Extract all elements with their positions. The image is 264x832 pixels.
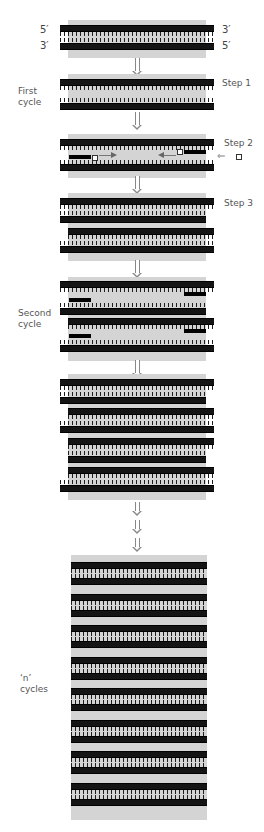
dna-strand (60, 164, 214, 171)
dna-strand (71, 720, 207, 727)
dna-strand (71, 767, 207, 774)
bases (68, 235, 214, 239)
bases (60, 38, 214, 42)
down-arrow-icon (134, 176, 140, 194)
down-arrow-icon (134, 502, 140, 516)
n-cycles-stack (71, 562, 207, 812)
down-arrow-icon (134, 260, 140, 278)
bases (71, 695, 207, 699)
dna-strand (60, 43, 214, 50)
end-label-5prime-top: 5′ (40, 24, 49, 35)
left-arrow-icon: ⇐ (217, 150, 225, 161)
right-arrow-icon (111, 152, 117, 158)
dna-strand (60, 25, 214, 32)
dna-strand (60, 103, 214, 110)
dna-strand (71, 625, 207, 632)
dna-strand (71, 641, 207, 648)
dna-strand (71, 610, 207, 617)
bases (60, 86, 214, 90)
dna-strand (60, 426, 214, 433)
dna-strand (71, 704, 207, 711)
bases (60, 421, 214, 425)
bases (60, 98, 214, 102)
dna-strand (60, 485, 214, 492)
dna-strand (60, 281, 214, 288)
step-2-label: Step 2 (224, 138, 253, 149)
end-label-3prime-bottom: 3′ (40, 40, 49, 51)
dna-strand (68, 456, 206, 463)
bases (71, 632, 207, 636)
down-arrow-icon (134, 538, 140, 552)
bases (71, 727, 207, 731)
primer (184, 329, 206, 333)
primer (69, 298, 91, 302)
primer (69, 334, 91, 338)
bases (71, 758, 207, 762)
n-cycles-label: ‘n’ cycles (20, 673, 48, 695)
bases (71, 601, 207, 605)
bases (71, 569, 207, 573)
dna-strand (60, 379, 214, 386)
dna-strand (68, 318, 214, 325)
dna-strand (60, 246, 214, 253)
dna-strand (71, 562, 207, 569)
step-1-label: Step 1 (222, 78, 251, 89)
dna-strand (71, 657, 207, 664)
first-cycle-label: First cycle (18, 86, 41, 108)
bases (60, 386, 214, 390)
dna-strand (71, 736, 207, 743)
left-arrow-icon (158, 152, 164, 158)
dna-strand (60, 216, 206, 223)
dna-strand (71, 751, 207, 758)
primer (184, 292, 206, 296)
dna-strand (71, 783, 207, 790)
bases (60, 205, 214, 209)
bases (60, 303, 206, 307)
second-cycle-label: Second cycle (18, 308, 51, 330)
bases (60, 480, 214, 484)
bases (71, 790, 207, 794)
dna-strand (68, 408, 214, 415)
bases (60, 392, 206, 396)
primer (184, 150, 206, 154)
dna-strand (60, 139, 214, 146)
end-label-5prime-bottom: 5′ (222, 40, 231, 51)
step-3-label: Step 3 (224, 198, 253, 209)
down-arrow-icon (134, 520, 140, 534)
bases (60, 32, 214, 36)
dna-strand (71, 688, 207, 695)
bases (60, 340, 214, 344)
dna-strand (60, 308, 206, 315)
dna-strand (68, 467, 214, 474)
bases (68, 451, 206, 455)
dna-strand (68, 228, 214, 235)
bases (71, 664, 207, 668)
dna-strand (60, 79, 214, 86)
dna-strand (71, 594, 207, 601)
end-label-3prime-top: 3′ (222, 24, 231, 35)
dna-strand (60, 397, 206, 404)
dna-strand (71, 578, 207, 585)
square-marker-icon (236, 154, 242, 160)
down-arrow-icon (134, 112, 140, 130)
dna-strand (71, 673, 207, 680)
horizontal-arrow-icon (164, 155, 176, 156)
bases (68, 445, 214, 449)
dna-strand (71, 799, 207, 806)
dna-strand (60, 345, 214, 352)
bases (60, 211, 206, 215)
bases (68, 415, 214, 419)
square-marker-icon (177, 149, 183, 155)
bases (68, 474, 214, 478)
horizontal-arrow-icon (99, 155, 111, 156)
primer (69, 155, 91, 159)
dna-strand (60, 198, 214, 205)
bases (60, 241, 214, 245)
dna-strand (68, 438, 214, 445)
